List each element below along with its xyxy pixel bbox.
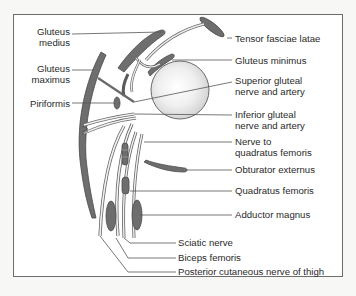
label-gluteus-minimus: Gluteus minimus: [235, 55, 306, 66]
label-gluteus-maximus: Gluteus maximus: [20, 63, 70, 85]
label-line: Gluteus minimus: [235, 55, 306, 66]
label-line: medius: [20, 37, 70, 48]
label-line: Inferior gluteal: [235, 109, 305, 120]
label-line: quadratus femoris: [235, 147, 312, 158]
label-superior-gluteal: Superior gluteal nerve and artery: [235, 75, 305, 97]
label-gluteus-medius: Gluteus medius: [20, 26, 70, 48]
label-line: nerve and artery: [235, 86, 305, 97]
label-line: Obturator externus: [235, 164, 315, 175]
label-line: maximus: [20, 74, 70, 85]
label-line: Adductor magnus: [235, 209, 310, 220]
quadratus-femoris-muscle: [122, 177, 129, 194]
nerve-to-quadratus-femoris: [122, 143, 128, 165]
label-piriformis: Piriformis: [14, 98, 70, 109]
label-quadratus-femoris: Quadratus femoris: [235, 185, 314, 196]
label-line: Tensor fasciae latae: [235, 33, 320, 44]
piriformis-muscle: [114, 97, 120, 109]
label-line: Piriformis: [14, 98, 70, 109]
label-adductor-magnus: Adductor magnus: [235, 209, 310, 220]
label-sciatic-nerve: Sciatic nerve: [178, 237, 233, 248]
label-line: Gluteus: [20, 63, 70, 74]
label-line: Quadratus femoris: [235, 185, 314, 196]
label-line: Nerve to: [235, 136, 312, 147]
label-inferior-gluteal: Inferior gluteal nerve and artery: [235, 109, 305, 131]
label-obturator-externus: Obturator externus: [235, 164, 315, 175]
tensor-fasciae-latae-muscle: [198, 15, 227, 40]
label-line: Posterior cutaneous nerve of thigh: [178, 266, 324, 277]
label-tensor-fasciae-latae: Tensor fasciae latae: [235, 33, 320, 44]
gluteus-maximus-muscle: [79, 52, 106, 218]
label-line: Sciatic nerve: [178, 237, 233, 248]
femoral-head: [151, 61, 209, 119]
label-nerve-to-quadratus-femoris: Nerve to quadratus femoris: [235, 136, 312, 158]
label-line: Biceps femoris: [178, 252, 241, 263]
label-biceps-femoris: Biceps femoris: [178, 252, 241, 263]
obturator-externus-muscle: [144, 160, 187, 172]
biceps-femoris-muscle: [106, 201, 116, 231]
label-line: nerve and artery: [235, 120, 305, 131]
label-posterior-cutaneous-nerve: Posterior cutaneous nerve of thigh: [178, 266, 324, 277]
label-line: Gluteus: [20, 26, 70, 37]
label-line: Superior gluteal: [235, 75, 305, 86]
